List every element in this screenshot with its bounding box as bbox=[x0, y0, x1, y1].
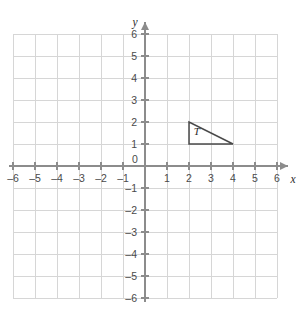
y-tick-label: 6 bbox=[131, 28, 137, 40]
x-tick-label: 2 bbox=[186, 172, 192, 184]
axis-lines-group bbox=[9, 22, 288, 302]
x-tick-label: 4 bbox=[230, 172, 236, 184]
y-tick-label: –4 bbox=[125, 248, 137, 260]
x-tick-label: –4 bbox=[51, 172, 63, 184]
y-axis-label: y bbox=[131, 16, 138, 29]
triangle-t-label: T bbox=[194, 125, 201, 137]
x-tick-label: 5 bbox=[252, 172, 258, 184]
y-tick-label: –3 bbox=[125, 226, 137, 238]
x-tick-label: –5 bbox=[29, 172, 41, 184]
y-tick-label: –6 bbox=[125, 292, 137, 304]
y-axis-arrowhead bbox=[141, 22, 149, 30]
y-tick-label: 3 bbox=[131, 94, 137, 106]
y-tick-label: –5 bbox=[125, 270, 137, 282]
y-tick-label: 4 bbox=[131, 72, 137, 84]
x-axis-label: x bbox=[289, 173, 296, 185]
x-tick-label: 6 bbox=[274, 172, 280, 184]
x-tick-label: 3 bbox=[208, 172, 214, 184]
x-axis-arrowhead bbox=[280, 162, 288, 170]
y-tick-label: 5 bbox=[131, 50, 137, 62]
y-tick-label: –2 bbox=[125, 204, 137, 216]
coordinate-plane-svg: –6–5–4–3–2–10123456–6–5–4–3–2–1123456 x … bbox=[0, 0, 308, 330]
x-tick-label: –2 bbox=[95, 172, 107, 184]
y-tick-label: 1 bbox=[131, 138, 137, 150]
coordinate-plane-figure: –6–5–4–3–2–10123456–6–5–4–3–2–1123456 x … bbox=[0, 0, 308, 330]
y-tick-label: –1 bbox=[125, 182, 137, 194]
x-tick-label: 1 bbox=[164, 172, 170, 184]
x-tick-label: –6 bbox=[7, 172, 19, 184]
x-tick-label: –3 bbox=[73, 172, 85, 184]
origin-label: 0 bbox=[132, 153, 138, 165]
y-tick-label: 2 bbox=[131, 116, 137, 128]
